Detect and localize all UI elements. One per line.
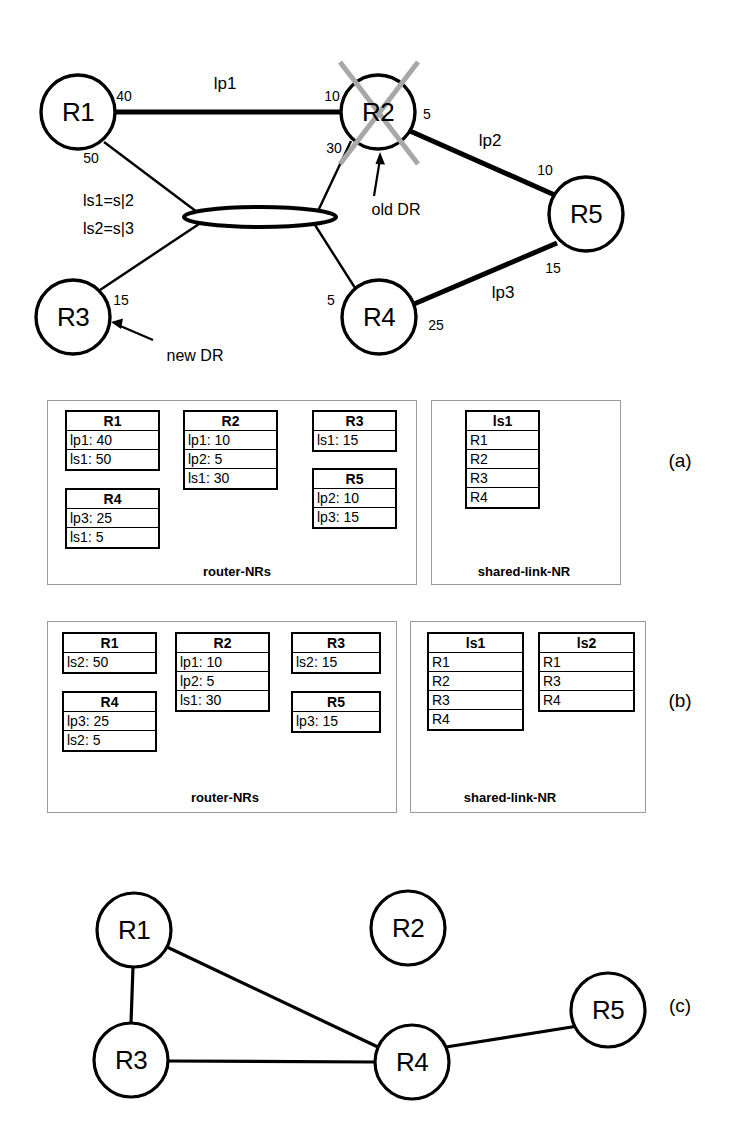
shared-link-equation-ls2: ls2=s|3 (83, 221, 134, 237)
nr-row: R4 (467, 488, 538, 507)
panel-c-node-label-R1: R1 (118, 917, 150, 943)
nr-row: R2 (467, 450, 538, 469)
panel-a-shared-link-nr-caption: shared-link-NR (478, 564, 570, 579)
edge-weight: 10 (324, 89, 340, 103)
edge-weight: 5 (423, 107, 431, 121)
nr-table-ls1[interactable]: ls1 R1 R2 R3 R4 (465, 410, 540, 509)
nr-table-ls1[interactable]: ls1 R1 R2 R3 R4 (427, 632, 524, 731)
old-dr-arrow-icon (374, 152, 385, 196)
panel-c-graph (94, 891, 645, 1099)
nr-table-R4[interactable]: R4 lp3: 25 ls1: 5 (65, 488, 160, 549)
nr-row: R3 (540, 672, 633, 691)
nr-header: R1 (67, 412, 158, 431)
nr-row: lp1: 40 (67, 431, 158, 450)
nr-row: ls2: 5 (64, 731, 155, 750)
nr-table-R5[interactable]: R5 lp3: 15 (291, 691, 381, 733)
panel-c-edge-R1-R4 (167, 947, 380, 1048)
nr-row: lp1: 10 (177, 653, 268, 672)
panel-c-node-label-R3: R3 (115, 1047, 147, 1073)
panel-letter-a: (a) (668, 451, 691, 470)
nr-header: ls2 (540, 634, 633, 653)
new-dr-arrow-icon (111, 319, 153, 341)
panel-letter-c: (c) (669, 996, 691, 1015)
topology-node-label-R2: R2 (362, 99, 394, 125)
nr-table-R3[interactable]: R3 ls1: 15 (312, 410, 397, 452)
topology-node-label-R4: R4 (363, 304, 395, 330)
topology-node-label-R1: R1 (62, 99, 94, 125)
nr-table-R2[interactable]: R2 lp1: 10 lp2: 5 ls1: 30 (183, 410, 278, 490)
panel-c-node-label-R2: R2 (392, 915, 424, 941)
new-dr-label: new DR (167, 348, 224, 364)
nr-header: R2 (177, 634, 268, 653)
edge-weight: 15 (545, 261, 561, 275)
nr-header: ls1 (467, 412, 538, 431)
nr-header: R1 (64, 634, 155, 653)
nr-row: R4 (429, 710, 522, 729)
nr-row: lp3: 15 (293, 712, 379, 731)
edge-weight: 10 (537, 163, 553, 177)
nr-row: lp2: 5 (177, 672, 268, 691)
link-R4-shared (315, 225, 357, 291)
nr-row: R3 (467, 469, 538, 488)
nr-header: R4 (67, 490, 158, 509)
nr-row: ls2: 15 (293, 653, 379, 672)
edge-weight: 40 (116, 89, 132, 103)
panel-letter-b: (b) (668, 691, 691, 710)
edge-weight: 50 (83, 151, 99, 165)
nr-row: lp3: 25 (67, 509, 158, 528)
nr-row: ls1: 30 (177, 691, 268, 710)
shared-link-ellipse (184, 207, 336, 227)
link-name-lp2: lp2 (479, 132, 502, 149)
nr-table-R4[interactable]: R4 lp3: 25 ls2: 5 (62, 691, 157, 752)
panel-c-node-label-R4: R4 (396, 1049, 428, 1075)
nr-row: lp2: 5 (185, 450, 276, 469)
panel-c-edge-R4-R5 (446, 1026, 578, 1047)
nr-header: ls1 (429, 634, 522, 653)
link-name-lp1: lp1 (214, 75, 237, 92)
nr-header: R3 (293, 634, 379, 653)
nr-row: R2 (429, 672, 522, 691)
edge-weight: 15 (113, 293, 129, 307)
nr-row: R4 (540, 691, 633, 710)
panel-b-router-nrs-caption: router-NRs (191, 790, 259, 805)
panel-a-router-nrs-caption: router-NRs (203, 564, 271, 579)
shared-link-equation-ls1: ls1=s|2 (83, 193, 134, 209)
nr-header: R3 (314, 412, 395, 431)
panel-c-edge-R1-R3 (131, 967, 133, 1023)
edge-weight: 30 (326, 141, 342, 155)
nr-table-R3[interactable]: R3 ls2: 15 (291, 632, 381, 674)
nr-row: R1 (540, 653, 633, 672)
link-lp3-R4-R5 (414, 243, 557, 304)
nr-table-ls2[interactable]: ls2 R1 R3 R4 (538, 632, 635, 712)
nr-header: R2 (185, 412, 276, 431)
nr-header: R5 (314, 470, 395, 489)
nr-row: R1 (467, 431, 538, 450)
nr-row: ls1: 50 (67, 450, 158, 469)
nr-row: ls2: 50 (64, 653, 155, 672)
nr-row: lp3: 15 (314, 508, 395, 527)
nr-row: lp3: 25 (64, 712, 155, 731)
nr-row: lp2: 10 (314, 489, 395, 508)
nr-header: R5 (293, 693, 379, 712)
nr-table-R1[interactable]: R1 ls2: 50 (62, 632, 157, 674)
nr-row: ls1: 15 (314, 431, 395, 450)
nr-table-R5[interactable]: R5 lp2: 10 lp3: 15 (312, 468, 397, 529)
nr-row: R1 (429, 653, 522, 672)
old-dr-label: old DR (372, 202, 421, 218)
edge-weight: 25 (428, 318, 444, 332)
edge-weight: 5 (327, 293, 335, 307)
figure-root: R1 R2 R3 R4 R5 40 10 5 50 30 10 15 15 5 … (0, 0, 745, 1133)
nr-header: R4 (64, 693, 155, 712)
panel-c-node-label-R5: R5 (592, 997, 624, 1023)
nr-table-R2[interactable]: R2 lp1: 10 lp2: 5 ls1: 30 (175, 632, 270, 712)
panel-b-shared-link-nr-caption: shared-link-NR (464, 790, 556, 805)
panel-c-edge-R3-R4 (168, 1061, 375, 1062)
nr-row: ls1: 5 (67, 528, 158, 547)
nr-table-R1[interactable]: R1 lp1: 40 ls1: 50 (65, 410, 160, 471)
topology-node-label-R5: R5 (570, 201, 602, 227)
topology-node-label-R3: R3 (57, 304, 89, 330)
nr-row: lp1: 10 (185, 431, 276, 450)
nr-row: R3 (429, 691, 522, 710)
link-name-lp3: lp3 (492, 284, 515, 301)
nr-row: ls1: 30 (185, 469, 276, 488)
